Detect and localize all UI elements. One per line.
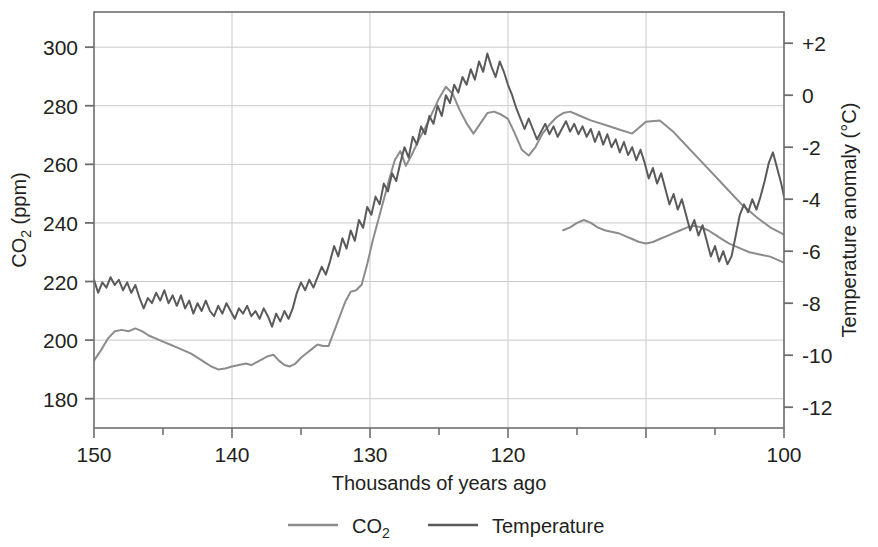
y2-axis-tick-label: -4	[802, 188, 821, 211]
chart-figure: 180200220240260280300+20-2-4-6-8-10-1215…	[0, 0, 878, 547]
y-axis-tick-label: 240	[43, 212, 78, 235]
x-axis-tick-label: 150	[76, 443, 111, 466]
y2-axis-tick-label: -2	[802, 136, 821, 159]
y-axis-tick-label: 180	[43, 388, 78, 411]
co2-temperature-line-chart: 180200220240260280300+20-2-4-6-8-10-1215…	[0, 0, 878, 547]
y-axis-tick-label: 300	[43, 36, 78, 59]
y2-axis-title: Temperature anomaly (°C)	[838, 103, 860, 338]
y-axis-tick-label: 260	[43, 153, 78, 176]
x-axis-tick-label: 120	[490, 443, 525, 466]
y-axis-tick-label: 280	[43, 95, 78, 118]
x-axis-title: Thousands of years ago	[332, 472, 547, 494]
x-axis-tick-label: 100	[766, 443, 801, 466]
chart-background	[0, 0, 878, 547]
y2-axis-tick-label: -12	[802, 396, 832, 419]
x-axis-tick-label: 140	[214, 443, 249, 466]
y2-axis-tick-label: -6	[802, 240, 821, 263]
y-axis-tick-label: 200	[43, 329, 78, 352]
y2-axis-tick-label: -10	[802, 344, 832, 367]
y-axis-tick-label: 220	[43, 271, 78, 294]
y2-axis-tick-label: 0	[802, 84, 814, 107]
y2-axis-tick-label: -8	[802, 292, 821, 315]
y2-axis-tick-label: +2	[802, 32, 826, 55]
legend-label-temperature: Temperature	[492, 515, 604, 537]
x-axis-tick-label: 130	[352, 443, 387, 466]
